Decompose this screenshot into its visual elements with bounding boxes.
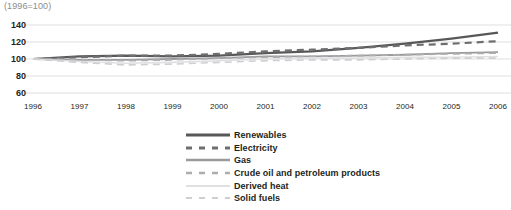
x-axis-tick-label: 2004 [385,102,425,111]
x-axis-tick-label: 2001 [246,102,286,111]
x-axis-tick-label: 2003 [339,102,379,111]
legend-swatch-icon-solid-fuels [186,192,230,204]
legend-swatch-icon-renewables [186,129,230,141]
legend-item-renewables[interactable]: Renewables [186,129,506,142]
y-axis-tick-label: 80 [0,72,26,81]
plot-svg [0,18,511,100]
x-axis-tick-label: 1998 [106,102,146,111]
x-axis-tick-label: 1999 [153,102,193,111]
legend-item-crude-oil-and-petroleum-products[interactable]: Crude oil and petroleum products [186,167,506,180]
legend-swatch-icon-crude-oil-and-petroleum-products [186,167,230,179]
plot-area: 6080100120140 [0,18,511,100]
chart-title: (1996=100) [4,1,51,11]
x-axis-tick-label: 2005 [432,102,472,111]
legend-item-solid-fuels[interactable]: Solid fuels [186,192,506,205]
y-axis-tick-label: 140 [0,21,26,30]
x-axis-tick-label: 2006 [478,102,511,111]
series-line-renewables [33,33,498,59]
chart-legend: RenewablesElectricityGasCrude oil and pe… [186,129,506,205]
legend-label-crude-oil-and-petroleum-products: Crude oil and petroleum products [234,168,380,178]
legend-label-gas: Gas [234,155,251,165]
legend-label-electricity: Electricity [234,143,278,153]
x-axis-labels: 1996199719981999200020012002200320042005… [0,100,511,118]
x-axis-tick-label: 2002 [292,102,332,111]
y-axis-tick-label: 100 [0,55,26,64]
legend-label-renewables: Renewables [234,130,287,140]
legend-swatch-icon-electricity [186,142,230,154]
chart-container: (1996=100) 6080100120140 199619971998199… [0,0,511,210]
legend-item-derived-heat[interactable]: Derived heat [186,179,506,192]
legend-label-derived-heat: Derived heat [234,181,289,191]
y-axis-tick-label: 120 [0,38,26,47]
legend-swatch-icon-gas [186,154,230,166]
x-axis-tick-label: 1997 [60,102,100,111]
y-axis-tick-label: 60 [0,89,26,98]
legend-item-electricity[interactable]: Electricity [186,142,506,155]
x-axis-tick-label: 1996 [13,102,53,111]
legend-swatch-icon-derived-heat [186,180,230,192]
legend-item-gas[interactable]: Gas [186,154,506,167]
legend-label-solid-fuels: Solid fuels [234,193,280,203]
x-axis-tick-label: 2000 [199,102,239,111]
